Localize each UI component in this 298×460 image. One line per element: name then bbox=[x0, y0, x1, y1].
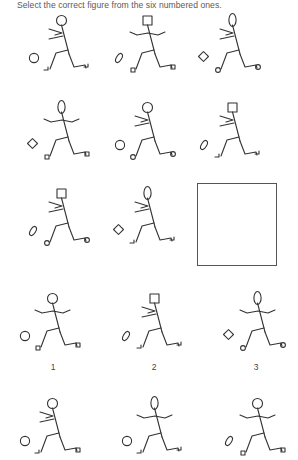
back-leg-line bbox=[143, 433, 161, 452]
square-head-icon bbox=[143, 16, 152, 25]
arms-spread-icon bbox=[137, 415, 172, 418]
oval-ball-icon bbox=[28, 225, 38, 236]
back-leg-line bbox=[50, 137, 68, 156]
front-leg-line bbox=[240, 54, 257, 68]
back-leg-line bbox=[41, 328, 59, 347]
circle-ball-icon bbox=[115, 140, 124, 149]
back-foot-square-icon bbox=[241, 451, 245, 455]
square-head-icon bbox=[150, 294, 159, 303]
back-leg-line bbox=[136, 137, 154, 156]
diamond-ball-icon bbox=[28, 139, 38, 149]
front-leg-line bbox=[60, 332, 77, 346]
diamond-ball-icon bbox=[224, 330, 234, 340]
back-foot-square-icon bbox=[131, 68, 135, 72]
back-foot-hook-icon bbox=[137, 345, 141, 348]
front-leg-line bbox=[69, 141, 86, 155]
instruction-text: Select the correct figure from the six n… bbox=[17, 0, 222, 10]
arms-spread-icon bbox=[130, 32, 165, 35]
diamond-ball-icon bbox=[114, 225, 124, 235]
back-leg-line bbox=[221, 137, 239, 156]
circle-head-icon bbox=[48, 399, 58, 409]
arms-spread-icon bbox=[35, 310, 70, 313]
back-leg-line bbox=[143, 328, 161, 347]
arms-back-icon bbox=[135, 202, 149, 212]
back-foot-circle-icon bbox=[45, 241, 50, 246]
option-3[interactable] bbox=[218, 288, 298, 363]
front-leg-line bbox=[265, 437, 282, 451]
circle-head-icon bbox=[48, 294, 58, 304]
oval-ball-icon bbox=[224, 435, 234, 446]
matrix-figure bbox=[22, 10, 102, 85]
front-leg-line bbox=[162, 437, 179, 451]
front-leg-line bbox=[69, 54, 86, 68]
back-leg-line bbox=[221, 50, 239, 69]
circle-ball-icon bbox=[20, 436, 29, 445]
back-foot-circle-icon bbox=[241, 346, 246, 351]
oval-ball-icon bbox=[199, 139, 209, 150]
front-leg-line bbox=[155, 227, 172, 241]
arms-back-icon bbox=[142, 307, 156, 317]
option-1-label: 1 bbox=[43, 362, 63, 372]
option-1[interactable] bbox=[13, 288, 93, 363]
front-leg-line bbox=[240, 141, 257, 155]
front-leg-line bbox=[162, 332, 179, 346]
arms-back-icon bbox=[135, 116, 149, 126]
arms-back-icon bbox=[40, 412, 54, 422]
arms-back-icon bbox=[220, 29, 234, 39]
missing-figure-box bbox=[197, 183, 277, 266]
front-leg-line bbox=[155, 141, 172, 155]
option-2-label: 2 bbox=[144, 362, 164, 372]
matrix-figure bbox=[108, 183, 188, 258]
back-leg-line bbox=[246, 433, 264, 452]
option-3-label: 3 bbox=[246, 362, 266, 372]
circle-head-icon bbox=[143, 103, 153, 113]
diamond-ball-icon bbox=[199, 52, 209, 62]
back-leg-line bbox=[50, 223, 68, 242]
square-head-icon bbox=[57, 189, 66, 198]
front-leg-line bbox=[69, 227, 86, 241]
back-leg-line bbox=[41, 433, 59, 452]
circle-ball-icon bbox=[29, 53, 38, 62]
arms-back-icon bbox=[220, 116, 234, 126]
arms-spread-icon bbox=[240, 310, 275, 313]
back-foot-hook-icon bbox=[137, 450, 141, 453]
matrix-figure bbox=[108, 10, 188, 85]
back-foot-square-icon bbox=[36, 346, 40, 350]
back-leg-line bbox=[50, 50, 68, 69]
option-4[interactable] bbox=[13, 393, 93, 460]
back-leg-line bbox=[246, 328, 264, 347]
matrix-figure bbox=[193, 10, 273, 85]
circle-head-icon bbox=[253, 399, 263, 409]
arms-back-icon bbox=[49, 202, 63, 212]
back-foot-circle-icon bbox=[216, 68, 221, 73]
back-foot-hook-icon bbox=[215, 154, 219, 157]
back-leg-line bbox=[136, 223, 154, 242]
back-foot-hook-icon bbox=[130, 240, 134, 243]
arms-spread-icon bbox=[44, 119, 79, 122]
option-6[interactable] bbox=[218, 393, 298, 460]
back-foot-hook-icon bbox=[35, 450, 39, 453]
oval-ball-icon bbox=[121, 330, 131, 341]
oval-ball-icon bbox=[114, 52, 124, 63]
front-leg-line bbox=[60, 437, 77, 451]
circle-ball-icon bbox=[122, 436, 131, 445]
matrix-figure bbox=[193, 97, 273, 172]
matrix-figure bbox=[108, 97, 188, 172]
circle-head-icon bbox=[57, 16, 67, 26]
arms-spread-icon bbox=[240, 415, 275, 418]
front-leg-line bbox=[265, 332, 282, 346]
matrix-figure bbox=[22, 183, 102, 258]
back-foot-hook-icon bbox=[44, 67, 48, 70]
option-5[interactable] bbox=[115, 393, 195, 460]
front-leg-line bbox=[155, 54, 172, 68]
circle-ball-icon bbox=[20, 331, 29, 340]
option-2[interactable] bbox=[115, 288, 195, 363]
matrix-figure bbox=[22, 97, 102, 172]
arms-back-icon bbox=[49, 29, 63, 39]
back-foot-square-icon bbox=[45, 155, 49, 159]
square-head-icon bbox=[228, 103, 237, 112]
back-foot-circle-icon bbox=[131, 155, 136, 160]
back-leg-line bbox=[136, 50, 154, 69]
